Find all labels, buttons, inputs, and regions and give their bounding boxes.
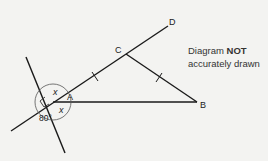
note-prefix: Diagram [188,45,227,56]
point-label-d: D [169,17,176,27]
accuracy-note: Diagram NOT accurately drawn [188,44,260,70]
angle-label-80: 80° [39,113,52,123]
geometry-diagram: x x 80° A B C D Diagram NOT accurately d… [0,0,268,161]
note-emphasis: NOT [227,45,247,56]
point-label-c: C [115,45,122,55]
point-label-a: A [67,92,73,102]
point-label-b: B [200,100,206,110]
segment-cb [126,54,197,102]
note-suffix: accurately drawn [188,58,260,69]
diagram-canvas: x x 80° A B C D [0,0,268,161]
angle-label-upper-x: x [52,87,58,97]
angle-label-lower-x: x [58,105,64,115]
